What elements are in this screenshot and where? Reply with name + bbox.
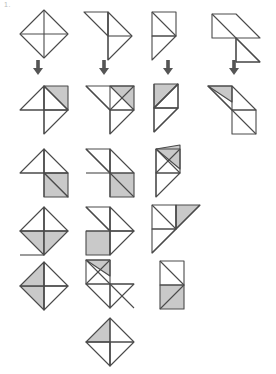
figure-r4c1[interactable]	[14, 203, 72, 257]
figure-r5c1[interactable]	[14, 258, 70, 312]
figure-r4c3[interactable]	[146, 201, 204, 257]
figure-r4c2[interactable]	[80, 203, 138, 257]
figure-sheet: 1.	[0, 0, 276, 374]
figure-r6c1[interactable]	[78, 314, 140, 374]
figure-r2c1[interactable]	[14, 80, 70, 136]
figure-r1c1[interactable]	[14, 8, 70, 60]
figure-r5c3[interactable]	[154, 257, 194, 313]
figure-r1c2[interactable]	[80, 8, 136, 60]
figure-r5c2[interactable]	[78, 256, 140, 318]
arrow-down-icon-1	[32, 60, 44, 76]
figure-r3c2[interactable]	[80, 145, 138, 199]
arrow-down-icon-3	[162, 60, 174, 76]
figure-grid	[0, 0, 276, 374]
arrow-down-icon-2	[98, 60, 110, 76]
figure-r2c2[interactable]	[80, 80, 140, 136]
figure-r3c3[interactable]	[148, 143, 200, 203]
figure-r1c3[interactable]	[148, 8, 198, 60]
figure-r3c1[interactable]	[14, 145, 70, 199]
figure-r2c4[interactable]	[204, 80, 272, 136]
figure-r1c4[interactable]	[206, 8, 270, 60]
figure-r2c3[interactable]	[148, 80, 200, 138]
arrow-down-icon-4	[228, 60, 240, 76]
